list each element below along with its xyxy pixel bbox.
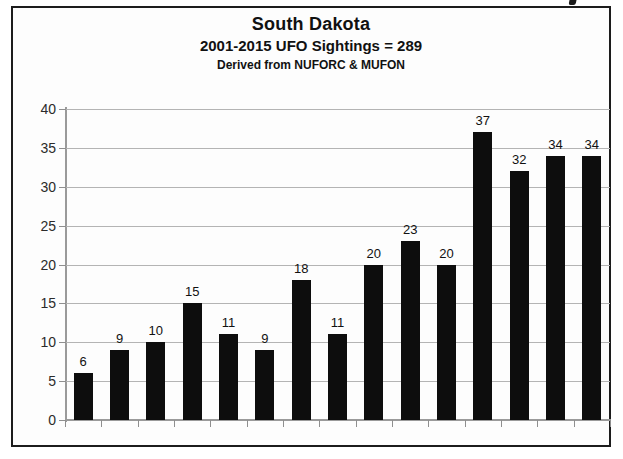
plot-area: 0510152025303540620019200210200315200411… [65,109,610,420]
y-axis-tick [59,265,66,266]
y-axis-tick [59,381,66,382]
bar-2015 [582,156,601,420]
gridline [65,109,610,110]
bar-value-label: 34 [585,137,599,152]
y-axis-tick-label: 15 [40,295,56,311]
x-axis-tick [101,420,102,427]
bar-2008 [328,334,347,420]
x-axis-tick [247,420,248,427]
page-title: South Dakota [13,13,609,35]
bar-2010 [401,241,420,420]
bar-value-label: 10 [149,323,163,338]
x-axis-tick [283,420,284,427]
bar-value-label: 9 [116,331,123,346]
y-axis-tick [59,187,66,188]
chart-title-block: South Dakota 2001-2015 UFO Sightings = 2… [13,10,609,74]
x-axis-tick [138,420,139,427]
y-axis-tick-label: 30 [40,179,56,195]
y-axis-tick [59,226,66,227]
bar-value-label: 18 [294,261,308,276]
page-text-fragment [568,0,576,5]
bar-2012 [473,132,492,420]
x-axis-tick [465,420,466,427]
y-axis-tick-label: 20 [40,257,56,273]
bar-2003 [146,342,165,420]
x-axis-tick [537,420,538,427]
bar-value-label: 11 [331,315,345,330]
y-axis-tick-label: 10 [40,334,56,350]
y-axis-tick-label: 0 [48,412,56,428]
x-axis-tick [392,420,393,427]
x-axis-tick [65,420,66,427]
y-axis-tick-label: 40 [40,101,56,117]
y-axis-tick-label: 25 [40,218,56,234]
bar-value-label: 20 [439,246,453,261]
y-axis-tick [59,342,66,343]
chart-source-note: Derived from NUFORC & MUFON [13,57,609,74]
x-axis-tick [319,420,320,427]
y-axis-tick-label: 5 [48,373,56,389]
x-axis-tick [356,420,357,427]
bar-2004 [183,303,202,420]
bar-value-label: 23 [403,222,417,237]
bar-value-label: 9 [261,331,268,346]
bar-2014 [546,156,565,420]
gridline [65,148,610,149]
bar-value-label: 37 [476,113,490,128]
bar-2002 [110,350,129,420]
x-axis-tick [174,420,175,427]
bar-2006 [255,350,274,420]
chart-frame: South Dakota 2001-2015 UFO Sightings = 2… [11,6,611,447]
y-axis-tick [59,303,66,304]
bar-value-label: 32 [512,152,526,167]
bar-value-label: 15 [185,284,199,299]
bar-value-label: 6 [80,354,87,369]
chart-screenshot: South Dakota 2001-2015 UFO Sightings = 2… [0,0,623,459]
chart-subtitle: 2001-2015 UFO Sightings = 289 [13,36,609,56]
x-axis-tick [610,420,611,427]
bar-value-label: 20 [367,246,381,261]
bar-2009 [364,265,383,421]
bar-2013 [510,171,529,420]
y-axis-tick [59,148,66,149]
x-axis-tick [574,420,575,427]
x-axis-tick [501,420,502,427]
x-axis-tick [428,420,429,427]
bar-2005 [219,334,238,420]
bar-2011 [437,265,456,421]
bar-2007 [292,280,311,420]
bar-value-label: 11 [222,315,236,330]
bar-2001 [74,373,93,420]
x-axis-tick [210,420,211,427]
y-axis-tick [59,109,66,110]
y-axis-tick-label: 35 [40,140,56,156]
bar-value-label: 34 [548,137,562,152]
